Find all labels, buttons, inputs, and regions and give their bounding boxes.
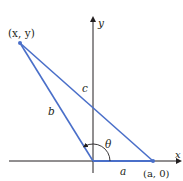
side-b-label: b [48, 105, 55, 117]
side-b [20, 43, 93, 161]
point-xy-dot [18, 41, 22, 45]
point-a0-label: (a, 0) [143, 168, 170, 179]
side-c [20, 43, 153, 161]
angle-theta-label: θ [105, 138, 112, 150]
x-axis-label: x [175, 149, 181, 160]
side-c-label: c [82, 82, 88, 94]
side-a-label: a [120, 165, 126, 177]
triangle-diagram: (x, y) (a, 0) y x b c a θ [0, 0, 183, 181]
point-xy-label: (x, y) [8, 27, 35, 39]
point-a0-dot [151, 159, 155, 163]
y-axis-label: y [97, 17, 105, 29]
